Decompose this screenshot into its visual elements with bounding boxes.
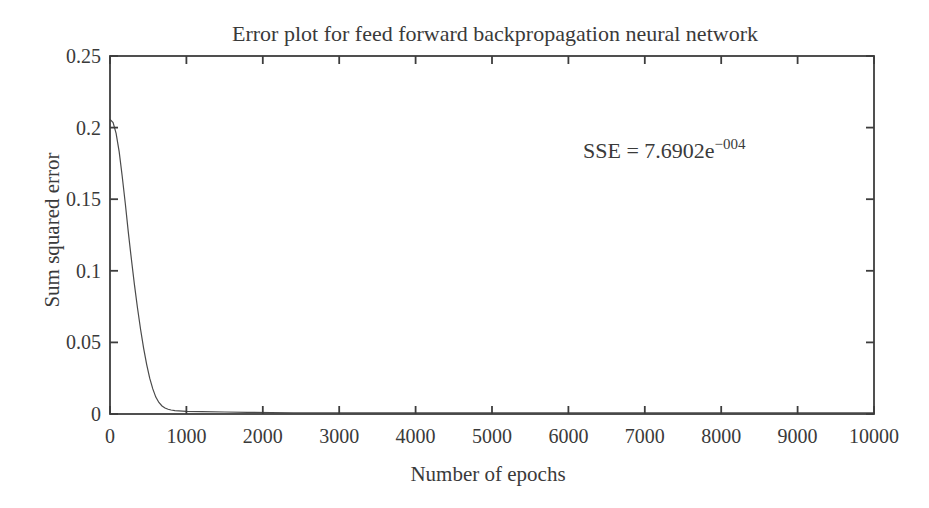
y-tick-label: 0.1 — [76, 260, 101, 282]
x-tick-label: 4000 — [396, 425, 436, 447]
y-tick-label: 0.25 — [66, 45, 101, 67]
y-axis-label: Sum squared error — [40, 152, 64, 307]
tick-marks — [110, 56, 874, 414]
plot-canvas: Error plot for feed forward backpropagat… — [0, 0, 929, 508]
x-tick-label: 2000 — [243, 425, 283, 447]
x-axis-label: Number of epochs — [410, 462, 565, 486]
chart-title: Error plot for feed forward backpropagat… — [232, 21, 758, 46]
x-tick-label: 0 — [105, 425, 115, 447]
x-tick-label: 6000 — [548, 425, 588, 447]
x-tick-label: 5000 — [472, 425, 512, 447]
sse-curve — [110, 119, 874, 413]
y-tick-label: 0.2 — [76, 117, 101, 139]
plot-box — [110, 56, 874, 414]
sse-annotation: SSE = 7.6902e−004 — [583, 136, 746, 163]
sse-annotation-exponent: −004 — [715, 136, 746, 152]
x-tick-label: 1000 — [166, 425, 206, 447]
tick-labels: 0100020003000400050006000700080009000100… — [66, 45, 899, 447]
x-tick-label: 9000 — [778, 425, 818, 447]
x-tick-label: 7000 — [625, 425, 665, 447]
x-tick-label: 10000 — [849, 425, 899, 447]
x-tick-label: 8000 — [701, 425, 741, 447]
sse-annotation-prefix: SSE = 7.6902e — [583, 138, 715, 163]
x-tick-label: 3000 — [319, 425, 359, 447]
y-tick-label: 0.05 — [66, 331, 101, 353]
y-tick-label: 0 — [91, 403, 101, 425]
y-tick-label: 0.15 — [66, 188, 101, 210]
axes-box — [110, 56, 874, 414]
error-plot-figure: Error plot for feed forward backpropagat… — [0, 0, 929, 508]
